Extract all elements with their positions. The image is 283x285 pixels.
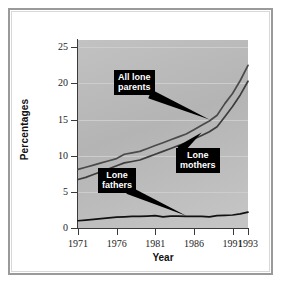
series-line-all-lone-parents	[78, 65, 248, 169]
series-lines	[0, 0, 283, 285]
annotation-lone-mothers: Lone mothers	[176, 148, 220, 173]
line-chart: 0510152025 197119761981198619911993 Perc…	[0, 0, 283, 285]
series-line-lone-fathers	[78, 212, 248, 221]
annotation-pointer	[148, 90, 209, 120]
figure-page: 0510152025 197119761981198619911993 Perc…	[0, 0, 283, 285]
annotation-lone-fathers: Lone fathers	[98, 168, 136, 193]
annotation-all-lone-parents: All lone parents	[114, 70, 155, 95]
